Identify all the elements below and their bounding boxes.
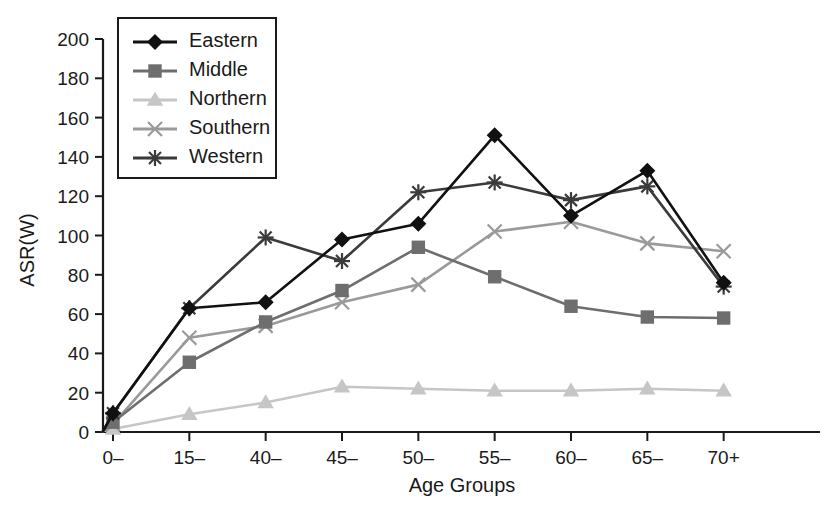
x-axis-title: Age Groups	[409, 474, 516, 496]
legend-label: Northern	[189, 87, 267, 109]
data-point-marker	[565, 300, 577, 312]
data-point-marker	[412, 241, 424, 253]
y-tick-label: 160	[57, 108, 89, 129]
data-point-marker	[718, 312, 730, 324]
data-point-marker	[260, 316, 272, 328]
x-tick-label: 45–	[326, 447, 358, 468]
x-tick-label: 60–	[555, 447, 587, 468]
series-line	[103, 135, 724, 431]
y-tick-label: 180	[57, 68, 89, 89]
y-tick-label: 200	[57, 29, 89, 50]
y-tick-label: 40	[68, 343, 89, 364]
data-point-marker	[489, 271, 501, 283]
legend-label: Western	[189, 145, 263, 167]
y-tick-label: 120	[57, 186, 89, 207]
y-tick-labels: 020406080100120140160180200	[57, 29, 89, 443]
y-tick-label: 20	[68, 383, 89, 404]
data-point-marker	[183, 356, 195, 368]
x-tick-label: 40–	[250, 447, 282, 468]
data-point-marker	[641, 311, 653, 323]
chart-canvas: 020406080100120140160180200 ASR(W) 0–15–…	[0, 0, 837, 512]
line-chart: 020406080100120140160180200 ASR(W) 0–15–…	[0, 0, 837, 512]
y-tick-label: 80	[68, 265, 89, 286]
y-tick-marks	[95, 39, 103, 432]
chart-legend: EasternMiddleNorthernSouthernWestern	[118, 18, 276, 178]
y-tick-label: 140	[57, 147, 89, 168]
x-tick-label: 50–	[402, 447, 434, 468]
x-axis: 0–15–40–45–50–55–60–65–70+ Age Groups	[102, 432, 820, 496]
x-tick-label: 55–	[479, 447, 511, 468]
x-tick-label: 65–	[631, 447, 663, 468]
y-tick-label: 60	[68, 304, 89, 325]
x-tick-label: 70+	[708, 447, 740, 468]
series-northern	[103, 380, 731, 434]
y-tick-label: 0	[78, 422, 89, 443]
legend-label: Southern	[189, 116, 270, 138]
legend-label: Middle	[189, 58, 248, 80]
x-tick-labels: 0–15–40–45–50–55–60–65–70+	[102, 447, 739, 468]
series-line	[103, 247, 724, 431]
data-point-marker	[149, 65, 161, 77]
y-axis-title: ASR(W)	[16, 213, 38, 286]
data-point-marker	[336, 285, 348, 297]
x-tick-label: 0–	[102, 447, 124, 468]
y-tick-label: 100	[57, 226, 89, 247]
x-tick-label: 15–	[173, 447, 205, 468]
legend-label: Eastern	[189, 29, 258, 51]
y-axis: 020406080100120140160180200 ASR(W)	[16, 29, 103, 443]
x-tick-marks	[113, 432, 724, 441]
